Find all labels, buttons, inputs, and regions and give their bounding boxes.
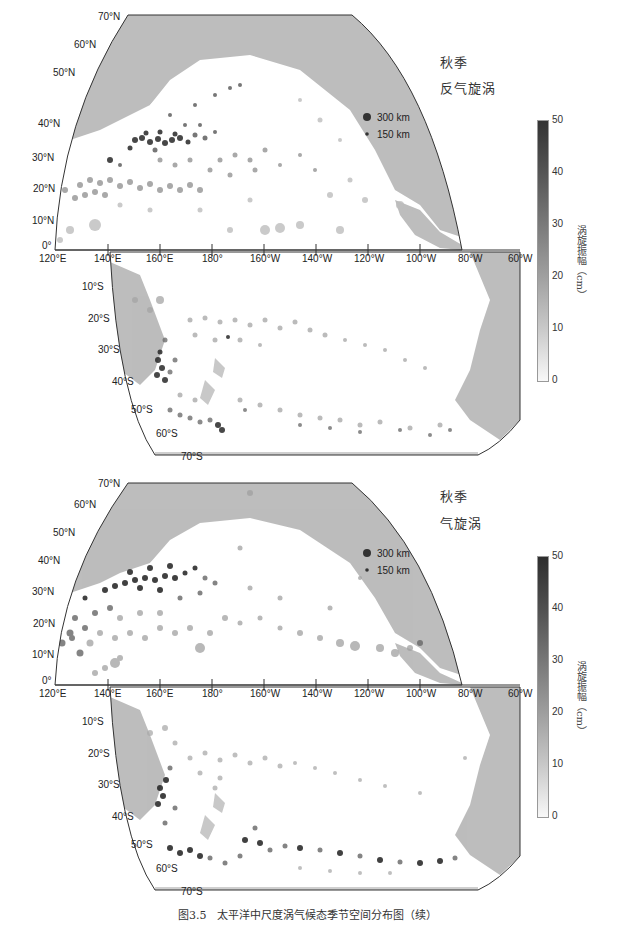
lon-label-60w: 60°W	[508, 688, 533, 699]
cbar-tick-10: 10	[552, 322, 563, 333]
lat-label-50n: 50°N	[53, 527, 75, 538]
figure-caption: 图3.5 太平洋中尺度涡气候态季节空间分布图（续）	[178, 906, 438, 922]
eddies-south	[132, 296, 452, 437]
lat-label-20n: 20°N	[33, 618, 55, 629]
legend-large-marker	[363, 113, 371, 121]
cbar-tick-50: 50	[552, 114, 563, 125]
lat-label-20n: 20°N	[33, 183, 55, 194]
map-anticyclonic: 120°E 140°E 160°E 180° 160°W 140°W 120°W…	[0, 0, 618, 470]
legend-small-label: 150 km	[377, 565, 410, 576]
lat-label-70s: 70°S	[181, 886, 203, 897]
lat-label-40s: 40°S	[112, 376, 134, 387]
lon-label-60w: 60°W	[508, 253, 533, 264]
lon-label-160e: 160°E	[146, 688, 174, 699]
colorbar	[537, 120, 549, 382]
lon-label-140e: 140°E	[94, 688, 122, 699]
panel-cyclonic: 120°E 140°E 160°E 180° 160°W 140°W 120°W…	[0, 468, 618, 908]
lon-label-100w: 100°W	[406, 688, 437, 699]
lat-label-70s: 70°S	[181, 451, 203, 462]
lon-label-160w: 160°W	[250, 253, 281, 264]
lon-label-80w: 80°W	[458, 688, 483, 699]
lat-label-20s: 20°S	[88, 313, 110, 324]
lat-label-60n: 60°N	[74, 499, 96, 510]
lat-label-0: 0°	[42, 240, 52, 251]
cbar-tick-50: 50	[552, 550, 563, 561]
legend-large-label: 300 km	[377, 112, 410, 123]
colorbar	[537, 556, 549, 818]
land-north	[55, 483, 470, 685]
lon-label-120e: 120°E	[39, 253, 67, 264]
cbar-tick-30: 30	[552, 218, 563, 229]
cbar-tick-10: 10	[552, 758, 563, 769]
lat-label-40n: 40°N	[38, 555, 60, 566]
cbar-tick-40: 40	[552, 602, 563, 613]
lon-label-120w: 120°W	[354, 253, 385, 264]
lon-label-120e: 120°E	[39, 688, 67, 699]
lon-label-100w: 100°W	[406, 253, 437, 264]
season-label: 秋季	[440, 52, 468, 71]
lat-label-40s: 40°S	[112, 811, 134, 822]
legend-small-marker	[365, 132, 369, 136]
lat-label-10n: 10°N	[32, 649, 54, 660]
lon-label-160e: 160°E	[146, 253, 174, 264]
cbar-tick-40: 40	[552, 166, 563, 177]
legend-small-label: 150 km	[377, 129, 410, 140]
frame-south	[110, 252, 520, 455]
lon-label-160w: 160°W	[250, 688, 281, 699]
eddy-type-label: 反气旋涡	[440, 78, 496, 97]
lon-label-120w: 120°W	[354, 688, 385, 699]
lat-label-50n: 50°N	[53, 67, 75, 78]
colorbar-label: 涡旋振幅（cm）	[573, 225, 588, 300]
legend-large-marker	[363, 549, 371, 557]
lat-label-10s: 10°S	[82, 716, 104, 727]
cbar-tick-0: 0	[552, 810, 558, 821]
frame-south	[110, 687, 520, 890]
lon-label-180: 180°	[202, 253, 223, 264]
lat-label-30n: 30°N	[32, 586, 54, 597]
lon-label-140w: 140°W	[302, 688, 333, 699]
panel-anticyclonic: 120°E 140°E 160°E 180° 160°W 140°W 120°W…	[0, 0, 618, 470]
lat-label-10n: 10°N	[32, 215, 54, 226]
cbar-tick-30: 30	[552, 654, 563, 665]
lon-label-80w: 80°W	[458, 253, 483, 264]
lat-label-30n: 30°N	[32, 152, 54, 163]
eddy-type-label: 气旋涡	[440, 513, 482, 532]
lon-label-180: 180°	[202, 688, 223, 699]
lat-label-60n: 60°N	[74, 39, 96, 50]
cbar-tick-20: 20	[552, 706, 563, 717]
lat-label-70n: 70°N	[98, 11, 120, 22]
lat-label-60s: 60°S	[156, 863, 178, 874]
map-cyclonic: 120°E 140°E 160°E 180° 160°W 140°W 120°W…	[0, 468, 618, 908]
lon-label-140w: 140°W	[302, 253, 333, 264]
lat-label-40n: 40°N	[38, 118, 60, 129]
lat-label-30s: 30°S	[98, 344, 120, 355]
lat-label-50s: 50°S	[131, 839, 153, 850]
cbar-tick-0: 0	[552, 374, 558, 385]
legend-small-marker	[365, 568, 369, 572]
lon-label-140e: 140°E	[94, 253, 122, 264]
legend-large-label: 300 km	[377, 548, 410, 559]
lat-label-10s: 10°S	[82, 281, 104, 292]
lat-label-0: 0°	[42, 675, 52, 686]
lat-label-50s: 50°S	[131, 404, 153, 415]
lat-label-20s: 20°S	[88, 748, 110, 759]
eddies-south	[147, 725, 467, 875]
lat-label-30s: 30°S	[98, 779, 120, 790]
lat-label-70n: 70°N	[98, 478, 120, 489]
cbar-tick-20: 20	[552, 270, 563, 281]
lat-label-60s: 60°S	[156, 428, 178, 439]
season-label: 秋季	[440, 486, 468, 505]
colorbar-label: 涡旋振幅（cm）	[573, 661, 588, 736]
